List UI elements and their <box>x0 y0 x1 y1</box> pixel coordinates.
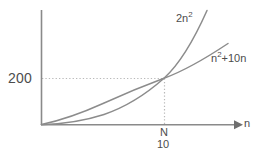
curve-label-2n-squared: 2n2 <box>176 13 193 24</box>
chart-plot-area <box>0 0 272 157</box>
curve-2n-squared <box>42 11 208 125</box>
curve-label-n-squared-plus-10n: n2+10n <box>211 53 246 64</box>
x-axis-label-n: n <box>244 118 250 129</box>
curve-label-2n-squared-exponent: 2 <box>188 10 192 19</box>
x-axis-tick-value-10: 10 <box>157 139 169 150</box>
curve-n-squared-plus-10n <box>42 44 229 125</box>
x-axis-arrow-icon <box>234 120 243 129</box>
curve-label-2n-squared-base: 2n <box>176 12 188 24</box>
y-axis-tick-label-200: 200 <box>8 71 32 85</box>
x-axis-tick-label-N: N <box>160 127 168 138</box>
growth-rate-chart-figure: 200 n 2n2 n2+10n N 10 <box>0 0 272 157</box>
curve-label-n-squared-plus-10n-tail: +10n <box>222 52 247 64</box>
